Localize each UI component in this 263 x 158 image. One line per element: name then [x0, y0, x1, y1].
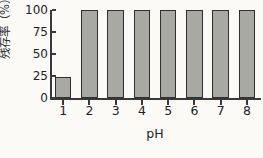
x-tick-label: 4	[130, 103, 154, 119]
y-tick-label: 75	[18, 26, 48, 38]
y-tick-label: 25	[18, 70, 48, 82]
bar	[55, 77, 71, 98]
x-tick-label: 6	[182, 103, 206, 119]
bar	[81, 10, 97, 98]
bar	[160, 10, 176, 98]
plot-area	[50, 10, 260, 98]
y-tick-mark	[52, 97, 56, 99]
y-axis-title: 残存率（%）	[0, 0, 15, 69]
bar	[186, 10, 202, 98]
x-tick-label: 1	[51, 103, 75, 119]
x-tick-label: 3	[104, 103, 128, 119]
bar	[134, 10, 150, 98]
y-tick-label: 50	[18, 48, 48, 60]
x-axis-spine	[50, 98, 261, 100]
ph-stability-bar-chart: 残存率（%） 0255075100 12345678 pH	[0, 0, 263, 158]
y-tick-mark	[52, 31, 56, 33]
x-axis-tick-labels: 12345678	[50, 103, 260, 121]
bar	[239, 10, 255, 98]
x-tick-label: 2	[77, 103, 101, 119]
y-tick-label: 100	[18, 4, 48, 16]
y-tick-label: 0	[18, 92, 48, 104]
bar	[107, 10, 123, 98]
y-tick-mark	[52, 75, 56, 77]
bars-layer	[50, 10, 260, 98]
x-tick-label: 8	[235, 103, 259, 119]
x-tick-label: 7	[209, 103, 233, 119]
x-tick-label: 5	[156, 103, 180, 119]
x-axis-title: pH	[50, 126, 260, 141]
y-axis-tick-labels: 0255075100	[18, 4, 48, 100]
y-tick-mark	[52, 53, 56, 55]
bar	[212, 10, 228, 98]
y-tick-mark	[52, 9, 56, 11]
